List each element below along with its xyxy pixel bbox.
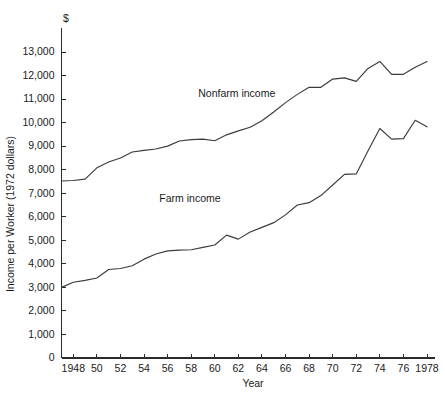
series-line-nonfarm-income — [62, 61, 428, 181]
x-tick-label: 56 — [162, 362, 174, 374]
x-tick-label: 54 — [138, 362, 150, 374]
x-tick-label: 1978 — [415, 362, 439, 374]
y-tick-label: 8,000 — [28, 163, 54, 175]
y-tick-label: 11,000 — [23, 92, 54, 104]
series-line-farm-income — [62, 120, 428, 287]
x-tick-label: 66 — [280, 362, 292, 374]
series-annotations: Nonfarm incomeFarm income — [159, 87, 275, 204]
y-axis: 01,0002,0003,0004,0005,0006,0007,0008,00… — [22, 28, 66, 363]
x-tick-label: 64 — [256, 362, 268, 374]
y-tick-label: 4,000 — [28, 257, 54, 269]
x-tick-label: 70 — [327, 362, 339, 374]
x-tick-label: 76 — [398, 362, 410, 374]
x-tick-label: 1948 — [62, 362, 86, 374]
y-tick-label: 13,000 — [22, 45, 54, 57]
x-tick-label: 72 — [350, 362, 362, 374]
x-axis: 194850525456586062646668707274761978 — [62, 354, 439, 375]
y-tick-label: 3,000 — [28, 281, 54, 293]
y-tick-label: 5,000 — [28, 234, 54, 246]
y-tick-label: 1,000 — [28, 328, 54, 340]
x-tick-label: 68 — [303, 362, 315, 374]
y-tick-label: 9,000 — [28, 139, 54, 151]
chart-figure: 01,0002,0003,0004,0005,0006,0007,0008,00… — [0, 0, 445, 401]
x-tick-label: 74 — [374, 362, 386, 374]
x-axis-title: Year — [242, 377, 264, 389]
x-tick-label: 50 — [91, 362, 103, 374]
y-tick-label: 7,000 — [28, 187, 54, 199]
y-tick-label: 2,000 — [28, 304, 54, 316]
y-tick-label: 10,000 — [22, 116, 54, 128]
line-chart-svg: 01,0002,0003,0004,0005,0006,0007,0008,00… — [0, 0, 445, 401]
x-tick-label: 62 — [233, 362, 245, 374]
y-tick-label: 12,000 — [22, 69, 54, 81]
x-tick-label: 60 — [209, 362, 221, 374]
y-axis-title: Income per Worker (1972 dollars) — [4, 136, 16, 292]
y-tick-label: 0 — [49, 351, 55, 363]
series-label-farm-income: Farm income — [159, 192, 220, 204]
y-tick-label: 6,000 — [28, 210, 54, 222]
currency-unit-marker: $ — [63, 12, 69, 24]
x-tick-label: 52 — [115, 362, 127, 374]
series-label-nonfarm-income: Nonfarm income — [198, 87, 275, 99]
x-tick-label: 58 — [185, 362, 197, 374]
